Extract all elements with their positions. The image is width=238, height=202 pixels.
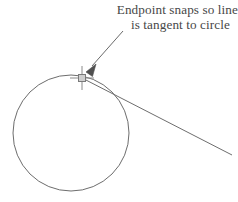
annotation-caption: Endpoint snaps so line is tangent to cir… (104, 2, 238, 32)
snap-box-icon (79, 75, 86, 82)
annotation-line-2: is tangent to circle (104, 17, 238, 32)
figure-canvas: Endpoint snaps so line is tangent to cir… (0, 0, 238, 202)
tangent-line (82, 78, 232, 155)
annotation-line-1: Endpoint snaps so line (104, 2, 238, 17)
circle-shape (13, 75, 129, 191)
arrowhead-icon (86, 64, 96, 77)
leader-arrow-icon (86, 31, 123, 77)
